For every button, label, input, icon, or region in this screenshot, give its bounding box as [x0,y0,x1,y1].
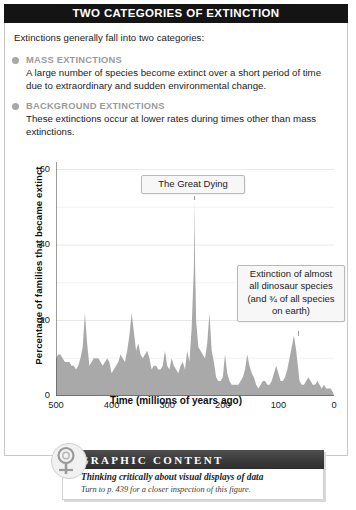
magnifying-glass-icon [50,442,88,480]
category-body: These extinctions occur at lower rates d… [12,113,338,138]
graphic-content-banner: Thinking critically about visual display… [62,450,324,500]
category-mass-extinctions: MASS EXTINCTIONS A large number of speci… [12,54,338,92]
banner-title: GRAPHIC CONTENT [80,454,224,466]
chart-x-tick-label: 0 [319,400,349,410]
chart-x-tick-label: 400 [97,400,127,410]
chart-y-tick-label: 60 [28,164,50,174]
callout-dinosaur-extinction: Extinction of almost all dinosaur specie… [237,265,345,322]
callout-great-dying: The Great Dying [141,175,245,194]
category-heading-label: MASS EXTINCTIONS [26,55,122,65]
banner-body: Thinking critically about visual display… [62,469,324,500]
chart-x-tick-label: 300 [152,400,182,410]
category-body: A large number of species become extinct… [12,67,338,92]
chart-y-tick-label: 0 [28,390,50,400]
chart-x-tick-label: 500 [41,400,71,410]
figure-title-bar: TWO CATEGORIES OF EXTINCTION [4,4,348,23]
intro-text: Extinctions generally fall into two cate… [14,31,334,44]
banner-subtitle: Thinking critically about visual display… [81,472,263,482]
category-background-extinctions: BACKGROUND EXTINCTIONS These extinctions… [12,100,338,138]
chart-y-tick-label: 20 [28,315,50,325]
callout-leader-line [194,196,195,200]
banner-title-bar: GRAPHIC CONTENT [62,450,324,469]
category-heading: BACKGROUND EXTINCTIONS [12,100,338,112]
callout-leader-line [298,331,299,336]
page-title: TWO CATEGORIES OF EXTINCTION [4,7,348,19]
figure-page: TWO CATEGORIES OF EXTINCTION Extinctions… [0,0,356,510]
category-heading: MASS EXTINCTIONS [12,54,338,66]
chart-y-axis-label: Percentage of families that became extin… [33,166,44,366]
chart-x-tick-label: 200 [208,400,238,410]
bullet-dot-icon [12,103,19,110]
chart-y-tick-label: 40 [28,239,50,249]
bullet-dot-icon [12,57,19,64]
chart-x-tick-label: 100 [263,400,293,410]
banner-note: Turn to p. 439 for a closer inspection o… [81,485,251,494]
category-heading-label: BACKGROUND EXTINCTIONS [26,101,165,111]
